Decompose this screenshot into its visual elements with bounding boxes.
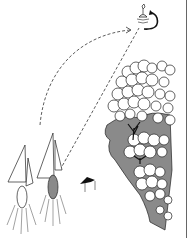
illustration bbox=[0, 0, 190, 238]
illustration-svg bbox=[0, 0, 190, 238]
buoy-icon bbox=[137, 4, 149, 23]
sailboat-leading bbox=[37, 133, 66, 226]
sailboat-trailing bbox=[7, 145, 36, 234]
frame-border bbox=[186, 0, 187, 238]
wind-arrow-icon bbox=[80, 177, 95, 192]
